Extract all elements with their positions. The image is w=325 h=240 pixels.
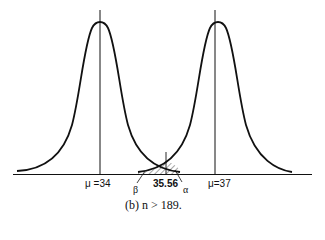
alternative-mean-label: μ=37 xyxy=(208,178,231,189)
beta-label: β xyxy=(133,184,138,195)
figure-caption: (b) n > 189. xyxy=(125,198,182,213)
critical-value-label: 35.56 xyxy=(153,178,178,189)
null-distribution-curve xyxy=(17,22,180,172)
null-mean-label: μ =34 xyxy=(85,178,111,189)
alpha-label: α xyxy=(183,184,188,195)
